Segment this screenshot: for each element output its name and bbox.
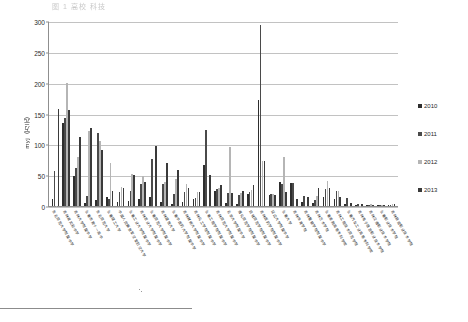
- bar-group: [50, 22, 61, 206]
- bar-group: [158, 22, 169, 206]
- legend-swatch-icon: [418, 160, 422, 164]
- figure-page: 图 1 高校 科技 myj（万元） 050100150200250300 东北师…: [0, 0, 468, 322]
- bar-group: [256, 22, 267, 206]
- bar-series-container: [49, 22, 398, 206]
- bar-2013: [199, 192, 201, 206]
- footnote-divider: [0, 308, 192, 309]
- bar-2013: [155, 146, 157, 206]
- bar-group: [148, 22, 159, 206]
- bar-group: [169, 22, 180, 206]
- bar-2013: [394, 204, 396, 206]
- bar-2013: [296, 199, 298, 206]
- bar-2013: [166, 163, 168, 206]
- bar-group: [72, 22, 83, 206]
- bar-2013: [58, 109, 60, 206]
- bar-2013: [177, 170, 179, 206]
- bar-group: [354, 22, 365, 206]
- y-tick-label: 300: [34, 19, 45, 26]
- bar-group: [83, 22, 94, 206]
- y-tick-label: 250: [34, 49, 45, 56]
- bar-2013: [90, 128, 92, 206]
- bar-2013: [329, 188, 331, 207]
- bar-2013: [372, 205, 374, 206]
- bar-group: [332, 22, 343, 206]
- legend-swatch-icon: [418, 132, 422, 136]
- bar-2013: [242, 191, 244, 206]
- bar-2013: [188, 188, 190, 207]
- bar-group: [104, 22, 115, 206]
- bar-2013: [339, 197, 341, 206]
- bar-group: [93, 22, 104, 206]
- bar-2013: [318, 188, 320, 207]
- y-tick-label: 100: [34, 142, 45, 149]
- bar-group: [289, 22, 300, 206]
- legend-label: 2011: [424, 131, 437, 137]
- bar-group: [191, 22, 202, 206]
- bar-2013: [220, 185, 222, 206]
- bar-2013: [68, 110, 70, 206]
- legend-label: 2013: [424, 187, 437, 193]
- y-tick-label: 50: [38, 173, 45, 180]
- bar-group: [310, 22, 321, 206]
- bar-2013: [383, 205, 385, 206]
- bar-group: [278, 22, 289, 206]
- bar-2013: [209, 175, 211, 206]
- bar-2013: [123, 188, 125, 207]
- legend-swatch-icon: [418, 188, 422, 192]
- bar-2013: [253, 185, 255, 206]
- bar-2011: [54, 171, 56, 206]
- y-tick-label: 150: [34, 111, 45, 118]
- bar-2013: [350, 203, 352, 206]
- bar-group: [213, 22, 224, 206]
- bar-2013: [112, 191, 114, 206]
- gridline: [49, 207, 398, 208]
- bar-group: [234, 22, 245, 206]
- bar-group: [224, 22, 235, 206]
- bar-2013: [285, 192, 287, 206]
- bar-group: [61, 22, 72, 206]
- bar-2011: [151, 159, 153, 206]
- y-tick-mark: [46, 207, 49, 208]
- bar-group: [386, 22, 397, 206]
- bar-group: [343, 22, 354, 206]
- bar-2011: [205, 130, 207, 206]
- bar-2013: [79, 137, 81, 206]
- legend-item-2013[interactable]: 2013: [418, 176, 464, 204]
- y-tick-label: 200: [34, 80, 45, 87]
- bar-group: [115, 22, 126, 206]
- y-axis-label: myj（万元）: [22, 112, 31, 149]
- legend-item-2011[interactable]: 2011: [418, 120, 464, 148]
- bar-2013: [144, 182, 146, 206]
- bar-group: [137, 22, 148, 206]
- bar-2013: [101, 150, 103, 206]
- plot-area: 050100150200250300: [48, 22, 398, 207]
- bar-chart: myj（万元） 050100150200250300 东北师范大学附属中学吉林省…: [0, 0, 468, 322]
- bar-group: [364, 22, 375, 206]
- bar-group: [267, 22, 278, 206]
- bar-2013: [361, 204, 363, 206]
- bar-2013: [274, 195, 276, 206]
- legend-item-2010[interactable]: 2010: [418, 92, 464, 120]
- bar-group: [245, 22, 256, 206]
- legend-label: 2010: [424, 103, 437, 109]
- bar-group: [299, 22, 310, 206]
- chart-legend: 2010201120122013: [418, 92, 464, 204]
- bar-2013: [307, 197, 309, 206]
- bar-group: [321, 22, 332, 206]
- legend-swatch-icon: [418, 104, 422, 108]
- bar-2011: [292, 183, 294, 206]
- y-tick-label: 0: [41, 204, 45, 211]
- bar-group: [126, 22, 137, 206]
- bar-2013: [264, 161, 266, 206]
- legend-item-2012[interactable]: 2012: [418, 148, 464, 176]
- legend-label: 2012: [424, 159, 437, 165]
- bar-2013: [133, 175, 135, 206]
- bar-group: [375, 22, 386, 206]
- bar-group: [202, 22, 213, 206]
- bar-group: [180, 22, 191, 206]
- bar-2013: [231, 193, 233, 206]
